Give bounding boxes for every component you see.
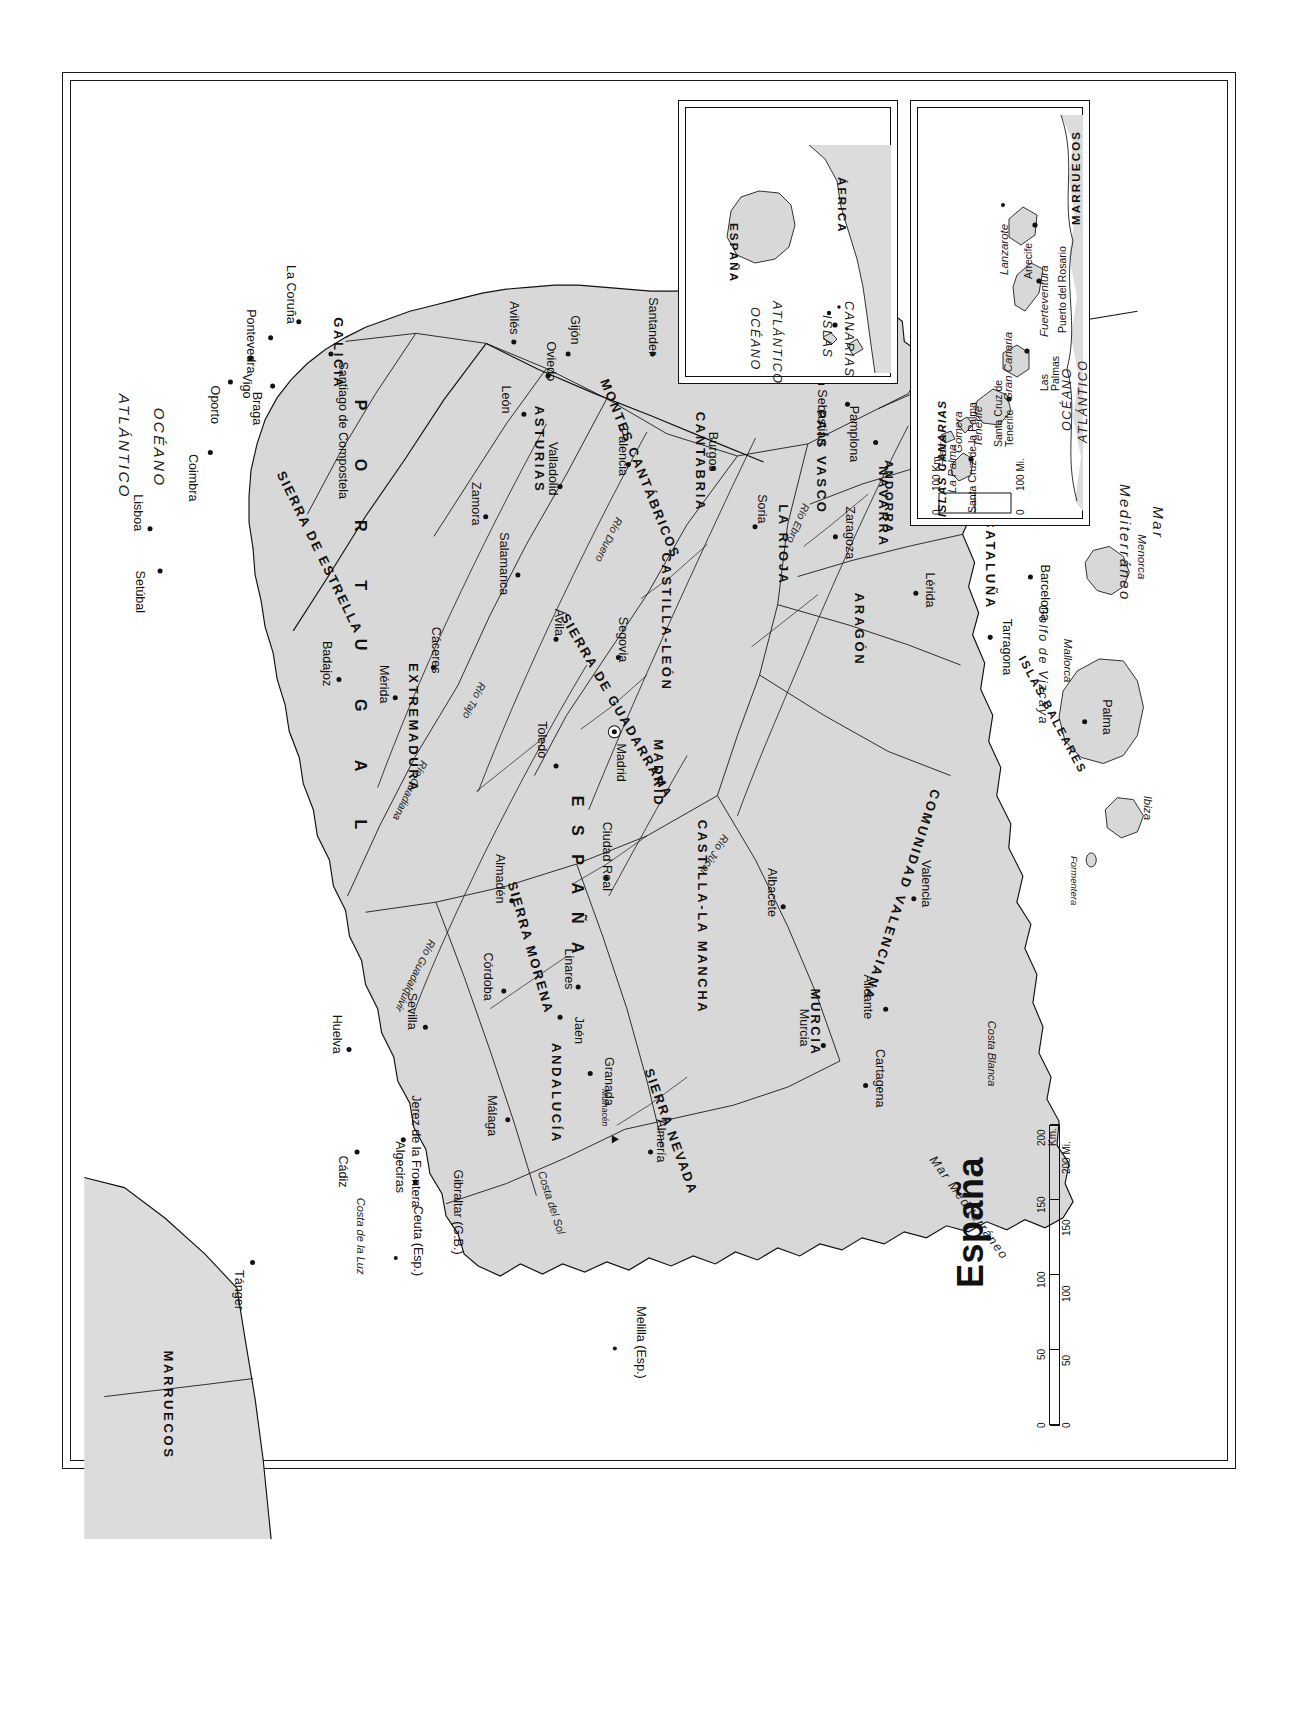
city-label-leon: León — [500, 385, 513, 413]
city-label-algeciras: Algeciras — [393, 1141, 406, 1193]
city-label-oviedo: Oviedo — [544, 341, 557, 381]
island-label-mallorca: Mallorca — [1062, 638, 1074, 682]
city-label-linares: Linares — [562, 948, 575, 989]
scale-bar-km — [1050, 1124, 1060, 1426]
inset-island-lanzarote: Lanzarote — [999, 224, 1011, 275]
city-dot-aviles — [511, 339, 516, 344]
inset-island-gomera: Gomera — [953, 411, 965, 453]
city-label-oporto: Oporto — [208, 385, 221, 423]
inset-scale-km-100: 100 Km. — [931, 454, 942, 491]
inset-locator: ESPAÑA ÁFRICA OCÉANO ATLÁNTICO ISLAS CAN… — [678, 100, 898, 384]
city-label-cartagena: Cartagena — [874, 1048, 887, 1107]
city-label-ciudad-real: Ciudad Real — [600, 821, 613, 890]
sea-label-mar-med-2: Mediterráneo — [1118, 484, 1133, 602]
country-label-marruecos: MARRUECOS — [162, 1350, 175, 1459]
city-dot-soria — [753, 524, 758, 529]
territory-dot-ceuta — [394, 1255, 398, 1259]
scale-km-0: 0 — [1036, 1422, 1047, 1428]
city-dot-braga — [270, 383, 275, 388]
city-dot-albacete — [781, 904, 786, 909]
city-dot-malaga — [505, 1117, 510, 1122]
region-label-navarra: NAVARRA — [877, 466, 890, 548]
city-label-granada: Granada — [602, 1056, 615, 1105]
city-dot-badajoz — [336, 677, 341, 682]
city-label-badajoz: Badajoz — [321, 640, 334, 685]
city-dot-setubal — [158, 568, 163, 573]
city-label-gijon: Gijón — [568, 315, 581, 344]
city-label-santander: Santander — [646, 297, 659, 355]
city-dot-huelva — [347, 1046, 352, 1051]
city-dot-murcia — [821, 1042, 826, 1047]
inset-scale-km-0: 0 — [931, 509, 942, 515]
city-dot-cartagena — [863, 1083, 868, 1088]
city-label-avila: Ávila — [552, 608, 565, 635]
city-dot-lisboa — [148, 526, 153, 531]
city-dot-tarragona — [988, 634, 993, 639]
inset-island-fuerteventura: Fuerteventura — [1039, 265, 1051, 337]
city-dot-zamora — [483, 514, 488, 519]
city-dot-santiago — [328, 351, 333, 356]
city-dot-oporto — [228, 379, 233, 384]
city-label-zaragoza: Zaragoza — [843, 506, 856, 559]
city-label-cordoba: Córdoba — [482, 952, 495, 1000]
city-label-pamplona: Pamplona — [847, 405, 860, 462]
city-label-jerez: Jerez de la Frontera — [409, 1095, 422, 1207]
city-label-tanger: Tánger — [232, 1270, 245, 1310]
inset-canarias-atlantico: ATLÁNTICO — [1077, 359, 1090, 443]
inset-city-puerto-rosario: Puerto del Rosario — [1057, 246, 1068, 333]
inset-locator-label-atlantico: ATLÁNTICO — [771, 301, 784, 385]
city-dot-merida — [393, 695, 398, 700]
territory-label-ceuta: Ceuta (Esp.) — [411, 1205, 424, 1276]
city-dot-coimbra — [208, 449, 213, 454]
territory-dot-melilla — [613, 1346, 617, 1350]
city-label-palma: Palma — [1101, 699, 1114, 735]
island-label-ibiza: Ibiza — [1142, 795, 1154, 819]
inset-locator-label-espana: ESPAÑA — [728, 223, 740, 283]
city-label-coimbra: Coimbra — [186, 453, 199, 500]
city-label-valladolid: Valladolid — [546, 441, 559, 495]
city-dot-sevilla — [423, 1024, 428, 1029]
city-dot-san-sebastian — [845, 401, 850, 406]
city-label-jaen: Jaén — [572, 1016, 585, 1043]
city-dot-lerida — [913, 590, 918, 595]
city-dot-jaen — [558, 1014, 563, 1019]
city-dot-almeria — [648, 1149, 653, 1154]
inset-city-sc-tenerife: Santa Cruz de Tenerife — [993, 375, 1015, 447]
city-label-aviles: Avilés — [508, 301, 521, 334]
scale-km-150: 150 — [1036, 1196, 1047, 1213]
scale-mi-50: 50 — [1061, 1355, 1072, 1366]
scale-bar-main: 0 50 100 150 200 Km. 0 50 100 150 200 Mi… — [1032, 1100, 1072, 1430]
city-label-barcelona: Barcelona — [1038, 564, 1051, 621]
capital-marker-madrid — [608, 725, 621, 738]
city-dot-cadiz — [355, 1149, 360, 1154]
scale-mi-100: 100 — [1061, 1285, 1072, 1302]
inset-city-arrecife: Arrecife — [1023, 243, 1034, 279]
scale-mi-0: 0 — [1061, 1422, 1072, 1428]
city-label-salamanca: Salamanca — [498, 532, 511, 595]
city-label-la-coruna: La Coruña — [285, 265, 298, 324]
sea-label-oceano: OCÉANO — [152, 407, 167, 487]
city-dot-valencia — [911, 896, 916, 901]
city-label-tarragona: Tarragona — [1000, 618, 1013, 675]
city-dot-vigo — [248, 355, 253, 360]
city-dot-pamplona — [873, 439, 878, 444]
city-dot-pontevedra — [268, 335, 273, 340]
scale-km-100: 100 — [1036, 1271, 1047, 1288]
region-label-castilla-mancha: CASTILLA-LA MANCHA — [696, 819, 709, 1014]
city-dot-barcelona — [1028, 574, 1033, 579]
city-label-toledo: Toledo — [536, 721, 549, 758]
city-label-madrid: Madrid — [614, 743, 627, 781]
page-title: España — [950, 1157, 992, 1288]
city-label-alicante: Alicante — [862, 974, 875, 1019]
inset-canarias-marruecos: MARRUECOS — [1071, 130, 1083, 225]
city-label-lisboa: Lisboa — [132, 494, 145, 531]
peak-marker-mulhacen — [612, 1135, 619, 1143]
city-label-santiago: Santiago de Compostela — [337, 361, 350, 499]
city-label-sevilla: Sevilla — [405, 992, 418, 1029]
city-dot-almaden — [509, 898, 514, 903]
city-dot-cordoba — [501, 988, 506, 993]
inset-canarias-oceano: OCÉANO — [1061, 367, 1074, 431]
sea-label-mar-med-1: Mar — [1151, 506, 1166, 539]
coast-label-costa-luz: Costa de la Luz — [355, 1197, 366, 1274]
city-dot-linares — [576, 984, 581, 989]
